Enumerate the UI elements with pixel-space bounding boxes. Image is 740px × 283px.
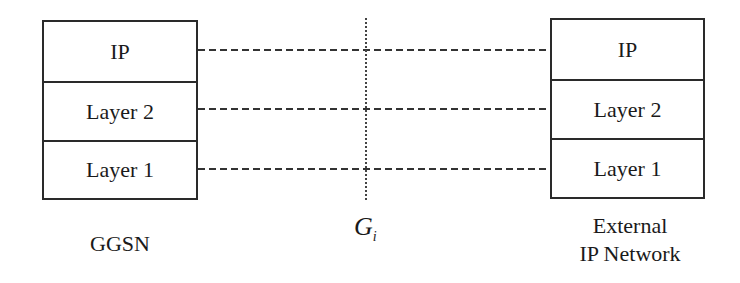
gi-interface-boundary xyxy=(365,18,367,200)
layer-label: Layer 2 xyxy=(86,99,154,125)
gi-interface-label: Gi xyxy=(354,212,377,245)
external-ip-network-label: External IP Network xyxy=(530,212,730,268)
layer-label: Layer 1 xyxy=(86,157,154,183)
ggsn-layer-1: Layer 1 xyxy=(44,140,196,198)
ggsn-label: GGSN xyxy=(42,230,198,258)
external-layer-1: Layer 1 xyxy=(552,138,703,197)
external-label-line2: IP Network xyxy=(530,240,730,268)
external-layer-ip: IP xyxy=(552,20,703,80)
layer1-peer-connection xyxy=(198,168,550,170)
external-layer-2: Layer 2 xyxy=(552,79,703,139)
layer-label: Layer 1 xyxy=(594,156,662,182)
ggsn-layer-2: Layer 2 xyxy=(44,81,196,141)
layer2-peer-connection xyxy=(198,108,550,110)
interface-subscript: i xyxy=(373,229,377,244)
ggsn-protocol-stack: IP Layer 2 Layer 1 xyxy=(42,20,198,200)
interface-symbol: G xyxy=(354,212,373,241)
layer-label: IP xyxy=(618,37,638,63)
external-label-line1: External xyxy=(530,212,730,240)
external-ip-network-protocol-stack: IP Layer 2 Layer 1 xyxy=(550,18,705,199)
ip-peer-connection xyxy=(198,49,550,51)
ggsn-layer-ip: IP xyxy=(44,22,196,82)
layer-label: IP xyxy=(110,39,130,65)
layer-label: Layer 2 xyxy=(594,97,662,123)
